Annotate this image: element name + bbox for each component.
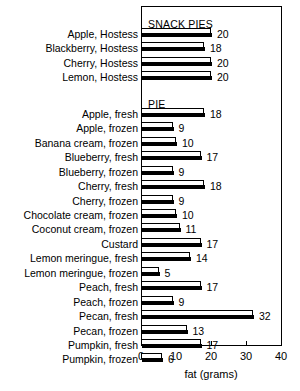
value-label: 10 — [182, 210, 194, 221]
x-tick-30 — [246, 341, 247, 346]
value-label: 9 — [179, 123, 185, 134]
x-tick-label-40: 40 — [263, 351, 299, 362]
category-label: Banana cream, frozen — [35, 138, 138, 149]
category-label: Pumpkin, frozen — [62, 354, 138, 365]
value-label: 20 — [217, 72, 229, 83]
plot-frame-right — [281, 6, 282, 346]
category-label: Custard — [101, 239, 138, 250]
category-label: Lemon, Hostess — [62, 72, 138, 83]
x-tick-40 — [281, 341, 282, 346]
value-label: 17 — [207, 282, 219, 293]
bar-shadow — [142, 358, 163, 362]
value-label: 14 — [196, 253, 208, 264]
value-label: 13 — [193, 326, 205, 337]
value-label: 9 — [179, 297, 185, 308]
category-label: Peach, frozen — [73, 297, 138, 308]
category-label: Pumpkin, fresh — [68, 340, 138, 351]
value-label: 6 — [168, 354, 174, 365]
x-axis-title: fat (grams) — [121, 369, 300, 380]
value-label: 32 — [259, 311, 271, 322]
category-label: Apple, Hostess — [67, 29, 138, 40]
plot-frame-top — [141, 6, 282, 7]
category-label: Cherry, frozen — [72, 196, 138, 207]
value-label: 18 — [210, 43, 222, 54]
value-label: 20 — [217, 58, 229, 69]
category-label: Apple, fresh — [82, 109, 138, 120]
bar-shadow — [142, 33, 212, 37]
value-label: 5 — [165, 268, 171, 279]
value-label: 9 — [179, 167, 185, 178]
bar-shadow — [142, 301, 174, 305]
bar-shadow — [142, 76, 212, 80]
value-label: 18 — [210, 181, 222, 192]
bar-shadow — [142, 330, 188, 334]
bar-shadow — [142, 257, 191, 261]
category-label: Chocolate cream, frozen — [24, 210, 138, 221]
category-label: Pecan, frozen — [73, 326, 138, 337]
category-label: Pecan, fresh — [79, 311, 138, 322]
category-label: Blueberry, frozen — [59, 167, 138, 178]
bar-shadow — [142, 214, 177, 218]
value-label: 20 — [217, 29, 229, 40]
bar-shadow — [142, 62, 212, 66]
value-label: 17 — [207, 340, 219, 351]
value-label: 17 — [207, 152, 219, 163]
category-label: Blackberry, Hostess — [45, 43, 138, 54]
category-label: Cherry, Hostess — [64, 58, 139, 69]
value-label: 17 — [207, 239, 219, 250]
bar-shadow — [142, 171, 174, 175]
bar-shadow — [142, 142, 177, 146]
category-label: Blueberry, fresh — [65, 152, 138, 163]
bar-shadow — [142, 286, 202, 290]
x-tick-label-20: 20 — [193, 351, 229, 362]
bar-shadow — [142, 200, 174, 204]
bar-shadow — [142, 185, 205, 189]
bar-shadow — [142, 272, 160, 276]
bar-shadow — [142, 47, 205, 51]
bar-shadow — [142, 243, 202, 247]
bar-shadow — [142, 315, 254, 319]
value-label: 11 — [186, 224, 197, 235]
value-label: 10 — [182, 138, 194, 149]
x-tick-label-10: 10 — [158, 351, 194, 362]
bar-shadow — [142, 228, 181, 232]
bar-shadow — [142, 113, 205, 117]
category-label: Cherry, fresh — [78, 181, 138, 192]
bar-shadow — [142, 344, 202, 348]
value-label: 18 — [210, 109, 222, 120]
fat-content-bar-chart: 010203040fat (grams)SNACK PIESApple, Hos… — [0, 0, 300, 391]
bar-shadow — [142, 127, 174, 131]
category-label: Peach, fresh — [79, 282, 138, 293]
value-label: 9 — [179, 196, 185, 207]
category-label: Coconut cream, frozen — [32, 224, 138, 235]
x-tick-label-30: 30 — [228, 351, 264, 362]
category-label: Lemon meringue, fresh — [30, 253, 138, 264]
bar-shadow — [142, 156, 202, 160]
category-label: Apple, frozen — [76, 123, 138, 134]
category-label: Lemon meringue, frozen — [24, 268, 138, 279]
